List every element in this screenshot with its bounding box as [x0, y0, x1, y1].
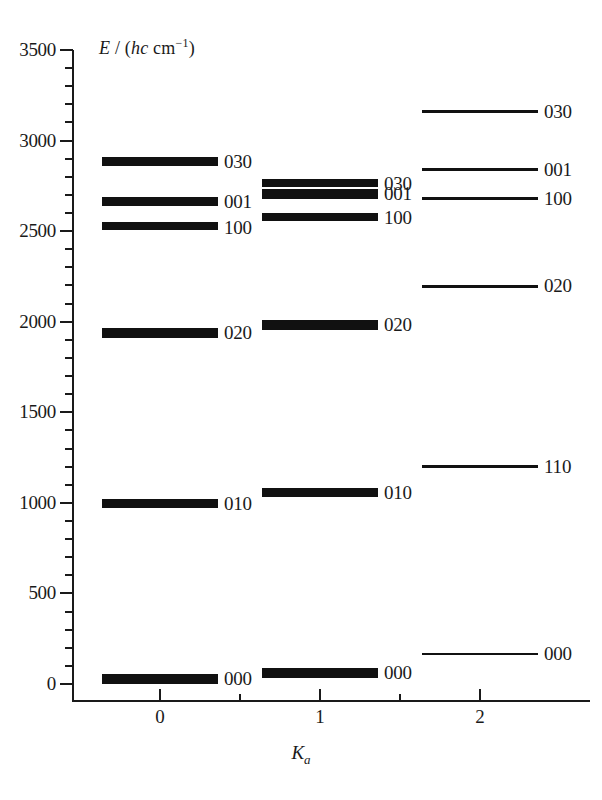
y-axis-major-tick: [60, 140, 73, 142]
y-axis-minor-tick: [65, 284, 73, 286]
y-axis-title-E: E: [99, 38, 110, 58]
energy-level-label-000: 000: [384, 663, 412, 682]
y-axis-title-close-paren: ): [189, 38, 195, 58]
y-axis-tick-label: 3500: [0, 40, 56, 59]
y-axis-minor-tick: [65, 647, 73, 649]
x-axis-title: Ka: [0, 742, 602, 768]
energy-level-line: [102, 505, 218, 508]
energy-level-label-001: 001: [224, 192, 252, 211]
x-axis-tick-label: 1: [300, 706, 340, 728]
energy-level-label-001: 001: [544, 160, 572, 179]
energy-level-label-030: 030: [544, 102, 572, 121]
y-axis-tick-label-text: 1500: [4, 402, 56, 421]
y-axis-minor-tick: [65, 176, 73, 178]
y-axis-minor-tick: [65, 484, 73, 486]
energy-level-label-010: 010: [224, 494, 252, 513]
x-axis-title-subscript: a: [304, 752, 311, 767]
y-axis-minor-tick: [65, 121, 73, 123]
energy-level-line: [262, 327, 378, 330]
energy-level-line: [102, 163, 218, 166]
y-axis-major-tick: [60, 411, 73, 413]
y-axis-major-tick: [60, 230, 73, 232]
energy-level-label-000: 000: [544, 644, 572, 663]
energy-level-line: [422, 197, 538, 200]
y-axis-major-tick: [60, 592, 73, 594]
y-axis-minor-tick: [65, 85, 73, 87]
y-axis-minor-tick: [65, 103, 73, 105]
y-axis-minor-tick: [65, 556, 73, 558]
energy-level-label-100: 100: [224, 218, 252, 237]
energy-level-label-020: 020: [544, 276, 572, 295]
energy-level-label-030: 030: [224, 152, 252, 171]
y-axis-minor-tick: [65, 339, 73, 341]
y-axis-tick-label-text: 0: [4, 674, 56, 693]
energy-level-diagram: E / (hc cm−1) Ka 05001000150020002500300…: [0, 0, 602, 800]
y-axis-minor-tick: [65, 212, 73, 214]
y-axis-minor-tick: [65, 466, 73, 468]
energy-level-line: [262, 494, 378, 497]
y-axis-minor-tick: [65, 194, 73, 196]
y-axis-tick-label: 2000: [0, 312, 56, 331]
x-axis-tick-label: 2: [460, 706, 500, 728]
y-axis-minor-tick: [65, 429, 73, 431]
energy-level-label-100: 100: [544, 189, 572, 208]
y-axis-tick-label: 1000: [0, 493, 56, 512]
energy-level-line: [102, 227, 218, 230]
x-axis-major-tick: [319, 689, 321, 702]
energy-level-line: [422, 465, 538, 468]
energy-level-line: [422, 285, 538, 288]
energy-level-label-000: 000: [224, 669, 252, 688]
x-axis-line: [72, 700, 590, 702]
x-axis-major-tick: [479, 689, 481, 702]
y-axis-minor-tick: [65, 375, 73, 377]
y-axis-tick-label-text: 500: [4, 583, 56, 602]
y-axis-minor-tick: [65, 357, 73, 359]
energy-level-line: [262, 184, 378, 187]
y-axis-title-cm: cm: [148, 38, 175, 58]
energy-level-label-020: 020: [224, 323, 252, 342]
y-axis-tick-label-text: 3500: [4, 40, 56, 59]
energy-level-line: [422, 110, 538, 113]
y-axis-minor-tick: [65, 158, 73, 160]
energy-level-label-001: 001: [384, 184, 412, 203]
y-axis-minor-tick: [65, 665, 73, 667]
x-axis-minor-tick: [239, 694, 241, 702]
y-axis-major-tick: [60, 683, 73, 685]
y-axis-minor-tick: [65, 611, 73, 613]
y-axis-minor-tick: [65, 538, 73, 540]
y-axis-minor-tick: [65, 393, 73, 395]
y-axis-minor-tick: [65, 303, 73, 305]
y-axis-tick-label-text: 2500: [4, 221, 56, 240]
energy-level-line: [262, 675, 378, 678]
energy-level-label-010: 010: [384, 483, 412, 502]
y-axis-tick-label-text: 1000: [4, 493, 56, 512]
y-axis-minor-tick: [65, 248, 73, 250]
x-axis-major-tick: [159, 689, 161, 702]
x-axis-tick-label: 0: [140, 706, 180, 728]
energy-level-line: [422, 168, 538, 171]
y-axis-minor-tick: [65, 448, 73, 450]
energy-level-line: [102, 681, 218, 684]
y-axis-tick-label: 1500: [0, 402, 56, 421]
y-axis-minor-tick: [65, 67, 73, 69]
y-axis-major-tick: [60, 49, 73, 51]
y-axis-minor-tick: [65, 266, 73, 268]
y-axis-major-tick: [60, 502, 73, 504]
x-axis-minor-tick: [399, 694, 401, 702]
energy-level-label-100: 100: [384, 208, 412, 227]
y-axis-tick-label: 0: [0, 674, 56, 693]
energy-level-line: [102, 335, 218, 338]
energy-level-label-110: 110: [544, 457, 571, 476]
y-axis-tick-label: 3000: [0, 131, 56, 150]
energy-level-line: [422, 653, 538, 656]
y-axis-tick-label: 500: [0, 583, 56, 602]
y-axis-tick-label-text: 3000: [4, 131, 56, 150]
y-axis-title-exponent: −1: [175, 36, 188, 50]
y-axis-minor-tick: [65, 574, 73, 576]
y-axis-title-slash: / (: [110, 38, 131, 58]
y-axis-major-tick: [60, 321, 73, 323]
energy-level-line: [262, 218, 378, 221]
y-axis-minor-tick: [65, 629, 73, 631]
energy-level-label-020: 020: [384, 315, 412, 334]
x-axis-title-K: K: [291, 742, 304, 763]
